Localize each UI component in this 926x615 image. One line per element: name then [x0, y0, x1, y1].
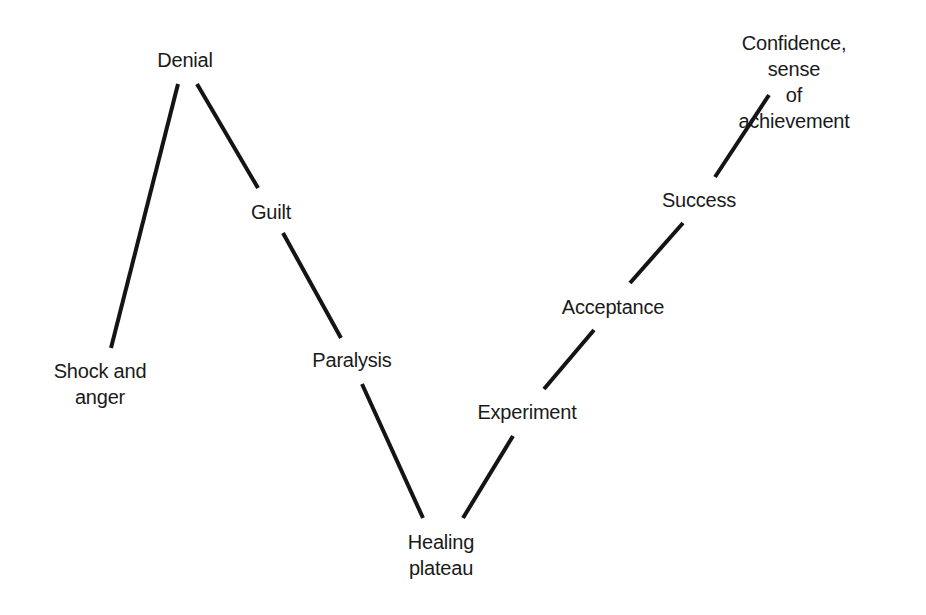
connector-denial-guilt: [197, 84, 258, 188]
connector-acceptance-success: [630, 223, 683, 283]
connector-experiment-acceptance: [544, 330, 594, 389]
connector-guilt-paralysis: [283, 233, 341, 338]
stage-label-guilt: Guilt: [251, 199, 291, 225]
stage-label-confidence: Confidence, sense of achievement: [728, 30, 860, 134]
connector-paralysis-healing: [362, 384, 423, 518]
connector-healing-experiment: [463, 436, 513, 518]
change-curve-diagram: Shock and anger Denial Guilt Paralysis H…: [0, 0, 926, 615]
connector-shock-denial: [111, 84, 178, 348]
stage-label-experiment: Experiment: [477, 399, 576, 425]
stage-label-healing-plateau: Healing plateau: [408, 529, 474, 581]
stage-label-denial: Denial: [157, 47, 213, 73]
stage-label-acceptance: Acceptance: [562, 294, 665, 320]
stage-label-paralysis: Paralysis: [312, 347, 391, 373]
stage-label-success: Success: [662, 187, 736, 213]
stage-label-shock-and-anger: Shock and anger: [54, 358, 147, 410]
